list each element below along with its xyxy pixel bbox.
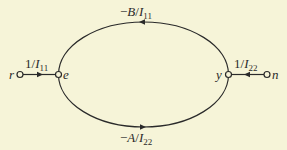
node-y <box>226 72 232 78</box>
loop-ellipse <box>59 22 229 127</box>
gain-label-upper: −B/I11 <box>120 5 152 21</box>
node-label-e: e <box>63 68 69 81</box>
node-e <box>56 72 62 78</box>
node-label-n: n <box>272 68 279 81</box>
node-label-r: r <box>9 68 14 81</box>
arrow-lower-arc-icon <box>140 124 146 129</box>
gain-label-n-y: 1/I22 <box>234 57 257 73</box>
node-n <box>264 72 270 78</box>
gain-label-lower: −A/I22 <box>120 131 152 147</box>
gain-label-r-e: 1/I11 <box>25 57 48 73</box>
node-label-y: y <box>216 68 222 81</box>
node-r <box>17 72 23 78</box>
signal-flow-graph <box>0 0 287 150</box>
